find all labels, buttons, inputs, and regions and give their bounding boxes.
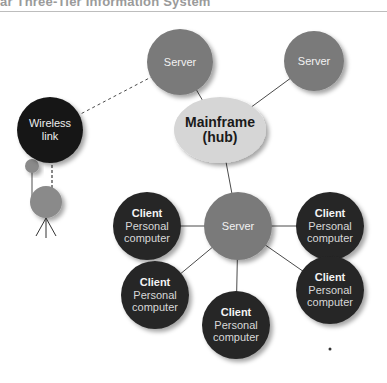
client-title: Client (124, 207, 170, 220)
client-label-3: Client Personal computer (132, 276, 178, 314)
server-center-label: Server (222, 220, 254, 233)
client-subtitle-1: Personal (307, 220, 353, 233)
wireless-link-label: Wireless link (29, 117, 71, 142)
client-subtitle-2: computer (307, 296, 353, 309)
client-subtitle-1: Personal (132, 289, 178, 302)
hub-line-1: Mainframe (185, 115, 255, 130)
mainframe-hub-label: Mainframe (hub) (185, 115, 255, 146)
wireless-line-1: Wireless (29, 117, 71, 130)
server-top-left-label: Server (164, 56, 196, 69)
client-subtitle-2: computer (213, 331, 259, 344)
antenna-icon (25, 159, 62, 238)
client-subtitle-2: computer (124, 232, 170, 245)
client-label-4: Client Personal computer (213, 306, 259, 344)
wireless-line-2: link (29, 130, 71, 143)
client-subtitle-1: Personal (124, 220, 170, 233)
client-label-5: Client Personal computer (307, 271, 353, 309)
client-subtitle-1: Personal (307, 284, 353, 297)
client-subtitle-1: Personal (213, 319, 259, 332)
hub-line-2: (hub) (185, 130, 255, 145)
client-label-2: Client Personal computer (307, 207, 353, 245)
client-subtitle-2: computer (132, 301, 178, 314)
client-title: Client (213, 306, 259, 319)
server-top-right-label: Server (298, 55, 330, 68)
client-subtitle-2: computer (307, 232, 353, 245)
client-title: Client (307, 207, 353, 220)
client-label-1: Client Personal computer (124, 207, 170, 245)
connection-lines (50, 61, 330, 325)
stray-mark (329, 348, 332, 351)
client-title: Client (307, 271, 353, 284)
client-title: Client (132, 276, 178, 289)
